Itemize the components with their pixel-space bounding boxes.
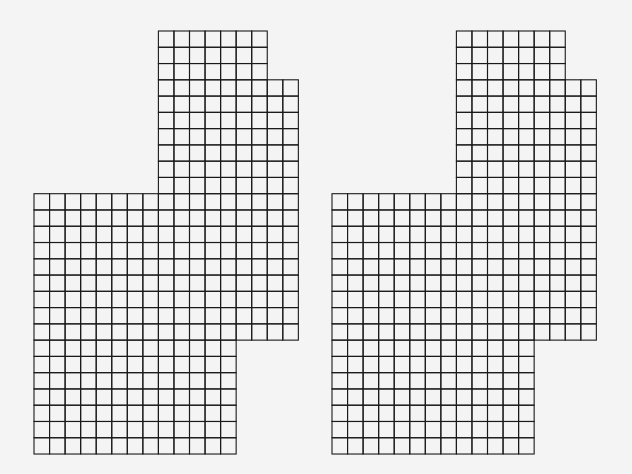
grid-cell bbox=[190, 129, 206, 145]
grid-cell bbox=[158, 80, 174, 96]
grid-cell bbox=[205, 145, 221, 161]
grid-cell bbox=[158, 421, 174, 437]
grid-cell bbox=[519, 421, 535, 437]
grid-cell bbox=[488, 194, 504, 210]
grid-cell bbox=[379, 421, 395, 437]
grid-cell bbox=[379, 389, 395, 405]
grid-cell bbox=[410, 210, 426, 226]
grid-cell bbox=[252, 259, 268, 275]
grid-cell bbox=[565, 177, 581, 193]
grid-cell bbox=[379, 405, 395, 421]
grid-cell bbox=[472, 291, 488, 307]
grid-cell bbox=[205, 243, 221, 259]
grid-cell bbox=[332, 421, 348, 437]
grid-cell bbox=[456, 112, 472, 128]
grid-cell bbox=[174, 308, 190, 324]
grid-cell bbox=[534, 64, 550, 80]
grid-cell bbox=[143, 226, 159, 242]
grid-cell bbox=[550, 47, 566, 63]
grid-cell bbox=[503, 324, 519, 340]
grid-cell bbox=[332, 275, 348, 291]
grid-cell bbox=[348, 340, 364, 356]
grid-cell bbox=[550, 31, 566, 47]
grid-cell bbox=[550, 96, 566, 112]
grid-cell bbox=[112, 226, 128, 242]
grid-cell bbox=[65, 194, 81, 210]
grid-cell bbox=[112, 243, 128, 259]
grid-cell bbox=[221, 47, 237, 63]
grid-cell bbox=[456, 161, 472, 177]
grid-cell bbox=[441, 438, 457, 454]
grid-cell bbox=[488, 275, 504, 291]
grid-cell bbox=[81, 389, 97, 405]
grid-cell bbox=[456, 243, 472, 259]
grid-cell bbox=[394, 226, 410, 242]
grid-cell bbox=[550, 210, 566, 226]
grid-cell bbox=[96, 308, 112, 324]
grid-cell bbox=[127, 421, 143, 437]
grid-cell bbox=[96, 356, 112, 372]
grid-cell bbox=[112, 291, 128, 307]
grid-cell bbox=[65, 308, 81, 324]
grid-cell bbox=[503, 226, 519, 242]
grid-cell bbox=[550, 275, 566, 291]
grid-cell bbox=[456, 210, 472, 226]
grid-cell bbox=[205, 194, 221, 210]
grid-cell bbox=[252, 64, 268, 80]
grid-cell bbox=[565, 112, 581, 128]
grid-cell bbox=[394, 340, 410, 356]
grid-cell bbox=[174, 373, 190, 389]
grid-cell bbox=[283, 194, 299, 210]
grid-cell bbox=[143, 194, 159, 210]
grid-cell bbox=[158, 64, 174, 80]
grid-cell bbox=[472, 421, 488, 437]
grid-cell bbox=[472, 438, 488, 454]
grid-cell bbox=[332, 405, 348, 421]
grid-cell bbox=[503, 438, 519, 454]
grid-cell bbox=[158, 129, 174, 145]
grid-cell bbox=[205, 129, 221, 145]
grid-cell bbox=[34, 340, 50, 356]
grid-cell bbox=[534, 129, 550, 145]
grid-cell bbox=[205, 210, 221, 226]
grid-cell bbox=[503, 405, 519, 421]
grid-cell bbox=[252, 129, 268, 145]
grid-cell bbox=[205, 356, 221, 372]
grid-cell bbox=[425, 275, 441, 291]
grid-cell bbox=[205, 275, 221, 291]
grid-cell bbox=[205, 438, 221, 454]
grid-cell bbox=[65, 291, 81, 307]
grid-cell bbox=[503, 80, 519, 96]
grid-cell bbox=[488, 421, 504, 437]
grid-cell bbox=[96, 243, 112, 259]
grid-cell bbox=[581, 112, 597, 128]
grid-cell bbox=[96, 405, 112, 421]
grid-cell bbox=[283, 226, 299, 242]
grid-cell bbox=[488, 96, 504, 112]
grid-cell bbox=[174, 47, 190, 63]
grid-cell bbox=[410, 324, 426, 340]
grid-cell bbox=[488, 438, 504, 454]
grid-cell bbox=[379, 243, 395, 259]
grid-cell bbox=[174, 112, 190, 128]
grid-cell bbox=[221, 31, 237, 47]
grid-cell bbox=[236, 210, 252, 226]
grid-cell bbox=[50, 324, 66, 340]
grid-cell bbox=[283, 112, 299, 128]
grid-cell bbox=[143, 389, 159, 405]
grid-cell bbox=[174, 210, 190, 226]
grid-cell bbox=[190, 64, 206, 80]
grid-cell bbox=[348, 421, 364, 437]
grid-cell bbox=[565, 259, 581, 275]
grid-cell bbox=[50, 243, 66, 259]
grid-cell bbox=[65, 210, 81, 226]
grid-cell bbox=[267, 112, 283, 128]
grid-cell bbox=[205, 421, 221, 437]
grid-cell bbox=[441, 308, 457, 324]
grid-cell bbox=[190, 308, 206, 324]
grid-cell bbox=[472, 145, 488, 161]
grid-cell bbox=[205, 308, 221, 324]
grid-cell bbox=[174, 438, 190, 454]
grid-cell bbox=[503, 129, 519, 145]
grid-cell bbox=[425, 194, 441, 210]
